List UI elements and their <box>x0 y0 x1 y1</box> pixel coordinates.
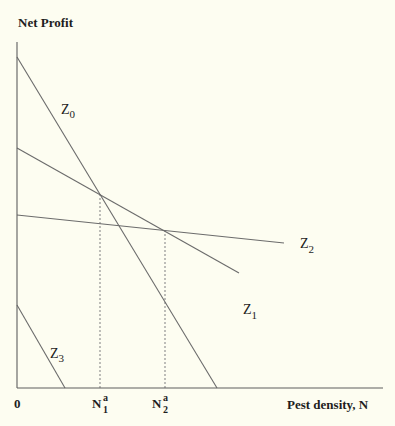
chart-figure: Net Profit Pest density, N 0 N a 1 N a 2… <box>0 0 395 426</box>
curve-label-base: Z <box>50 346 59 361</box>
curve-label-subscript: 2 <box>309 243 315 255</box>
marker-subscript: 2 <box>163 404 168 415</box>
marker-superscript: a <box>163 392 168 403</box>
x-axis-label: Pest density, N <box>287 397 369 412</box>
curve-label-base: Z <box>300 236 309 251</box>
marker-subscript: 1 <box>103 404 108 415</box>
curve-label-subscript: 1 <box>252 309 258 321</box>
curve-label-base: Z <box>61 102 70 117</box>
curve-label-subscript: 0 <box>70 108 76 120</box>
curve-label-subscript: 3 <box>59 352 65 364</box>
marker-base: N <box>152 396 162 411</box>
y-axis-label: Net Profit <box>18 15 74 30</box>
marker-base: N <box>92 396 102 411</box>
marker-superscript: a <box>103 392 108 403</box>
origin-label: 0 <box>14 396 21 411</box>
curve-label-base: Z <box>243 302 252 317</box>
